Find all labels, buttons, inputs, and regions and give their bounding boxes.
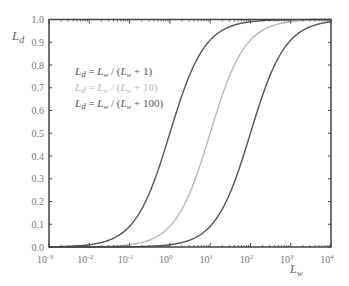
y-tick-label: 1.0 [32, 14, 45, 25]
y-tick-label: 0.2 [32, 196, 45, 207]
x-tick-label: 102 [240, 253, 254, 265]
x-axis: 10-310-210-1100101102103104 [37, 20, 334, 266]
y-tick-label: 0.8 [32, 60, 45, 71]
curve-k100 [49, 22, 331, 247]
legend-entry: Ld = Lw / (Lw + 10) [74, 81, 158, 95]
y-tick-label: 0.7 [32, 82, 45, 93]
x-tick-label: 101 [199, 253, 213, 265]
legend-entry: Ld = Lw / (Lw + 1) [74, 65, 152, 79]
y-tick-label: 0.9 [32, 37, 45, 48]
curve-k1 [49, 20, 331, 247]
x-tick-label: 10-2 [77, 253, 93, 265]
y-tick-label: 0.1 [32, 219, 45, 230]
x-axis-label: Lw [289, 262, 303, 278]
curve-k10 [49, 20, 331, 247]
x-tick-label: 10-3 [37, 253, 53, 265]
legend: Ld = Lw / (Lw + 1)Ld = Lw / (Lw + 10)Ld … [74, 65, 163, 111]
x-tick-label: 104 [320, 253, 334, 265]
chart: 0.00.10.20.30.40.50.60.70.80.91.0 10-310… [0, 0, 349, 286]
y-tick-label: 0.4 [32, 151, 45, 162]
y-tick-label: 0.3 [32, 173, 45, 184]
x-tick-label: 10-1 [118, 253, 134, 265]
x-tick-label: 100 [159, 253, 173, 265]
y-axis: 0.00.10.20.30.40.50.60.70.80.91.0 [32, 14, 332, 253]
y-tick-label: 0.5 [32, 128, 45, 139]
y-axis-label: Ld [11, 28, 25, 45]
curves [49, 20, 331, 247]
y-tick-label: 0.0 [32, 242, 45, 253]
y-tick-label: 0.6 [32, 105, 45, 116]
legend-entry: Ld = Lw / (Lw + 100) [74, 97, 163, 111]
plot-frame [49, 20, 331, 248]
